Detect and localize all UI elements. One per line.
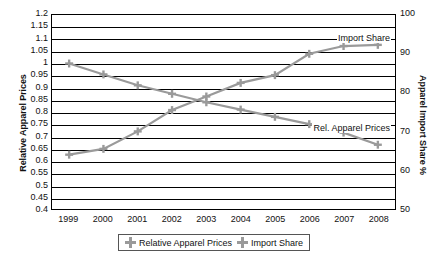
data-point-marker [168, 90, 176, 98]
data-point-marker [65, 60, 73, 68]
chart-container: Relative Apparel Prices Apparel Import S… [0, 0, 445, 269]
legend-item[interactable]: Import Share [237, 237, 303, 248]
data-point-marker [271, 113, 279, 121]
annotation-label: Import Share [337, 33, 391, 43]
data-point-marker [237, 106, 245, 114]
legend-item-label: Relative Apparel Prices [139, 238, 232, 248]
data-point-marker [134, 81, 142, 89]
plus-marker-icon [237, 237, 248, 248]
plot-area: Import ShareRel. Apparel Prices [51, 14, 396, 210]
legend-item[interactable]: Relative Apparel Prices [125, 237, 232, 248]
chart-legend: Relative Apparel PricesImport Share [118, 234, 310, 251]
data-point-marker [99, 145, 107, 153]
series-line-2 [69, 45, 378, 155]
data-point-marker [99, 70, 107, 78]
annotation-label: Rel. Apparel Prices [312, 123, 391, 133]
x-axis-tick-label: 2008 [359, 214, 399, 224]
plus-marker-icon [125, 237, 136, 248]
series-layer [52, 15, 395, 209]
data-point-marker [65, 151, 73, 159]
data-point-marker [340, 42, 348, 50]
legend-item-label: Import Share [251, 238, 303, 248]
data-point-marker [374, 141, 382, 149]
data-point-marker [237, 79, 245, 87]
data-point-marker [202, 93, 210, 101]
